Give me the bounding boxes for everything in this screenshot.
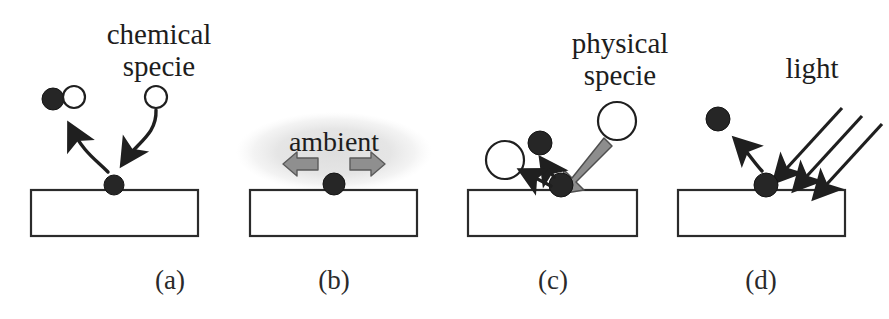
panel-a-product-open-particle [63, 86, 85, 108]
panel-d-light-ray-1 [776, 108, 842, 180]
panel-a-adsorption-arrow [123, 110, 156, 163]
surface-interaction-figure: chemical specie (a) ambient [0, 0, 889, 319]
panel-d-substrate [678, 190, 845, 236]
panel-c-label-line2: specie [584, 59, 656, 91]
panel-c-caption: (c) [538, 265, 568, 295]
panel-a-substrate [31, 190, 198, 236]
panel-c: physical specie (c) [468, 27, 668, 295]
panel-d-desorption-arrow [736, 140, 762, 171]
panel-b: ambient (b) [236, 112, 432, 295]
panel-b-label: ambient [289, 126, 379, 157]
panel-a-desorption-arrow [70, 126, 108, 172]
panel-d-desorbed-particle [706, 107, 730, 131]
panel-a-product-dark-particle [42, 88, 64, 110]
panel-d-light-ray-2 [796, 116, 862, 188]
panel-b-substrate [250, 190, 417, 236]
panel-c-sputter-arrow-up [542, 160, 554, 177]
panel-d-light-ray-3 [816, 124, 882, 196]
panel-c-substrate [468, 190, 637, 236]
panel-c-incident-ion [598, 102, 636, 140]
panel-a-label-line2: specie [123, 50, 195, 82]
figure-canvas: chemical specie (a) ambient [0, 0, 889, 319]
panel-b-caption: (b) [318, 265, 349, 295]
panel-a-label-line1: chemical [107, 18, 212, 50]
panel-c-label-line1: physical [572, 27, 669, 59]
panel-b-adsorbed-particle [323, 173, 345, 195]
panel-d-adsorbed-particle [754, 173, 778, 197]
panel-c-sputter-arrow-left [522, 171, 551, 186]
panel-d-caption: (d) [745, 265, 776, 295]
panel-a: chemical specie (a) [31, 18, 211, 295]
panel-a-adsorbed-particle [104, 175, 124, 195]
panel-c-sputtered-open-particle [486, 141, 524, 179]
panel-a-incoming-species [145, 86, 167, 108]
panel-d-label: light [785, 52, 838, 84]
panel-a-caption: (a) [155, 265, 185, 295]
panel-c-sputtered-dark-particle [528, 131, 552, 155]
panel-d: light (d) [678, 52, 882, 295]
